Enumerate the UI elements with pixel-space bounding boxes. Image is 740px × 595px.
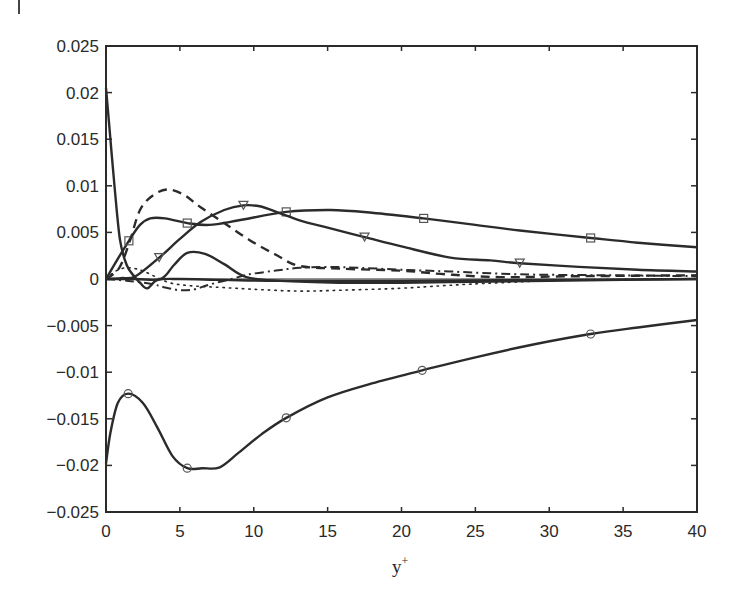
x-tick-label: 40 — [688, 522, 707, 541]
plot-series-group — [106, 88, 697, 472]
y-tick-label: −0.015 — [47, 410, 99, 429]
y-tick-label: 0.015 — [56, 130, 99, 149]
x-tick-label: 5 — [175, 522, 184, 541]
y-tick-label: −0.025 — [47, 503, 99, 522]
y-tick-label: 0.01 — [66, 177, 99, 196]
series-solid-circle-line — [106, 320, 697, 469]
y-tick-label: 0.025 — [56, 37, 99, 56]
x-tick-label: 30 — [540, 522, 559, 541]
x-tick-label: 35 — [614, 522, 633, 541]
line-chart: 0510152025303540 0.0250.020.0150.010.005… — [0, 0, 740, 595]
x-tick-label: 20 — [392, 522, 411, 541]
y-tick-label: 0 — [90, 270, 99, 289]
y-tick-label: −0.005 — [47, 317, 99, 336]
x-axis-label: y+ — [392, 554, 409, 577]
series-solid-steep-line — [106, 88, 697, 288]
x-tick-label: 10 — [244, 522, 263, 541]
y-tick-label: 0.005 — [56, 223, 99, 242]
x-axis-ticks: 0510152025303540 — [101, 46, 706, 541]
x-tick-label: 25 — [466, 522, 485, 541]
series-dashed-line — [106, 190, 697, 280]
y-tick-label: 0.02 — [66, 84, 99, 103]
x-tick-label: 15 — [318, 522, 337, 541]
y-tick-label: −0.02 — [56, 456, 99, 475]
y-tick-label: −0.01 — [56, 363, 99, 382]
x-tick-label: 0 — [101, 522, 110, 541]
